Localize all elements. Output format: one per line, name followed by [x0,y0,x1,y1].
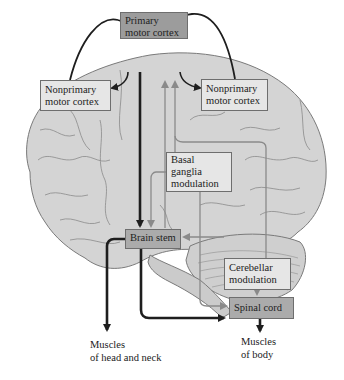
body-line2: of body [241,349,276,362]
spinal-cord-box: Spinal cord [229,297,294,319]
muscles-head-neck-label: Muscles of head and neck [90,339,161,364]
basal-ganglia-box: Basal ganglia modulation [166,152,232,192]
nonprimary-motor-cortex-right-box: Nonprimary motor cortex [201,79,268,111]
nonprimary-right-line2: motor cortex [206,95,263,107]
muscles-body-label: Muscles of body [241,336,276,361]
motor-pathway-diagram: Primary motor cortex Nonprimary motor co… [0,0,344,380]
nonprimary-motor-cortex-left-box: Nonprimary motor cortex [40,80,111,111]
nonprimary-left-line1: Nonprimary [45,84,106,96]
spinal-cord-label: Spinal cord [234,302,289,314]
head-neck-line1: Muscles [90,339,161,352]
cerebellar-modulation-box: Cerebellar modulation [224,258,291,290]
cerebellar-line1: Cerebellar [229,262,286,274]
brain-stem-label: Brain stem [130,232,176,244]
head-neck-line2: of head and neck [90,352,161,365]
nonprimary-left-line2: motor cortex [45,96,106,108]
primary-line2: motor cortex [125,27,183,39]
basal-line3: modulation [171,178,227,190]
primary-line1: Primary [125,15,183,27]
nonprimary-right-line1: Nonprimary [206,83,263,95]
brain-stem-box: Brain stem [125,229,181,249]
basal-line1: Basal [171,154,227,166]
primary-motor-cortex-box: Primary motor cortex [120,12,188,39]
body-line1: Muscles [241,336,276,349]
basal-line2: ganglia [171,166,227,178]
cerebellar-line2: modulation [229,274,286,286]
